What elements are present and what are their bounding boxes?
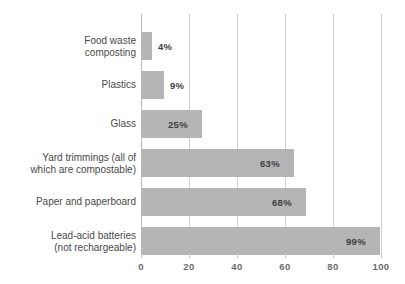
bar-value-label: 4% [158, 41, 172, 52]
category-label: Yard trimmings (all of which are compost… [30, 152, 136, 175]
x-tick-label: 0 [138, 261, 144, 272]
x-tick-80 [333, 253, 334, 258]
gridline-100 [381, 14, 382, 253]
chart-title-clipped [112, 0, 312, 2]
bar-value-label: 25% [168, 119, 188, 130]
x-tick-60 [285, 253, 286, 258]
bar-plastics [142, 71, 164, 99]
plot-area: 4% 9% 25% 63% 68% 99% 0 20 40 60 80 100 [141, 14, 382, 253]
x-tick-label: 20 [183, 261, 194, 272]
category-label: Paper and paperboard [36, 196, 136, 208]
x-tick-label: 40 [231, 261, 242, 272]
category-label: Glass [110, 118, 136, 130]
x-tick-0 [141, 253, 142, 258]
x-tick-100 [381, 253, 382, 258]
x-tick-40 [237, 253, 238, 258]
x-tick-label: 80 [327, 261, 338, 272]
x-tick-label: 100 [372, 261, 389, 272]
x-tick-20 [189, 253, 190, 258]
gridline-60 [285, 14, 286, 253]
bar-value-label: 68% [272, 197, 292, 208]
x-tick-label: 60 [279, 261, 290, 272]
bar-value-label: 99% [346, 236, 366, 247]
category-axis: Food waste composting Plastics Glass Yar… [0, 14, 136, 253]
category-label: Lead-acid batteries (not rechargeable) [51, 230, 136, 253]
gridline-40 [237, 14, 238, 253]
gridline-80 [333, 14, 334, 253]
bar-value-label: 9% [170, 80, 184, 91]
bar-value-label: 63% [260, 158, 280, 169]
category-label: Food waste composting [84, 35, 136, 58]
category-label: Plastics [102, 79, 136, 91]
bar-lead-acid-batteries [142, 227, 380, 255]
bar-chart: Food waste composting Plastics Glass Yar… [0, 0, 405, 284]
bar-food-waste-composting [142, 32, 152, 60]
